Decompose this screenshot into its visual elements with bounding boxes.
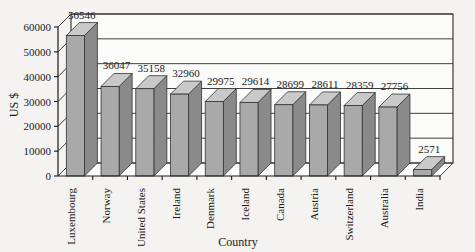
bar-value-label: 29975 bbox=[207, 75, 235, 87]
bar bbox=[171, 81, 202, 176]
chart-container: 0100002000030000400005000060000 56546360… bbox=[0, 0, 475, 252]
x-axis-category-label: Austria bbox=[308, 188, 320, 221]
x-axis-category-label: Australia bbox=[378, 188, 390, 228]
x-axis-category-label: Norway bbox=[100, 188, 112, 224]
x-axis-category-label: Switzerland bbox=[343, 188, 355, 241]
bar-value-label: 32960 bbox=[172, 67, 200, 79]
y-axis-tick-label: 20000 bbox=[24, 120, 52, 132]
x-axis-category-label: Iceland bbox=[239, 188, 251, 221]
bar bbox=[66, 23, 97, 176]
bar-value-label: 28359 bbox=[346, 79, 374, 91]
bar-value-label: 35158 bbox=[138, 62, 166, 74]
bar-value-label: 27756 bbox=[381, 80, 409, 92]
bar bbox=[275, 92, 306, 176]
bar bbox=[101, 73, 132, 176]
bar-value-label: 56546 bbox=[68, 9, 96, 21]
y-axis-tick-label: 60000 bbox=[24, 21, 52, 33]
bar bbox=[205, 89, 236, 176]
bar-value-label: 28699 bbox=[276, 78, 304, 90]
bar-value-label: 2571 bbox=[418, 143, 440, 155]
y-axis-tick-label: 40000 bbox=[24, 71, 52, 83]
y-axis-ticks: 0100002000030000400005000060000 bbox=[24, 21, 59, 182]
x-axis-category-label: India bbox=[413, 188, 425, 211]
x-axis-title: Country bbox=[218, 235, 257, 249]
bar bbox=[344, 93, 375, 176]
y-axis-tick-label: 0 bbox=[46, 170, 52, 182]
y-axis-tick-label: 50000 bbox=[24, 46, 52, 58]
y-axis-tick-label: 10000 bbox=[24, 145, 52, 157]
bar-value-label: 36047 bbox=[103, 59, 131, 71]
y-axis-title: US $ bbox=[7, 93, 21, 117]
bar bbox=[240, 89, 271, 176]
x-axis-category-label: Ireland bbox=[170, 188, 182, 220]
x-axis-category-label: Luxembourg bbox=[65, 188, 77, 245]
x-axis-category-label: United States bbox=[135, 188, 147, 247]
y-axis-tick-label: 30000 bbox=[24, 96, 52, 108]
bar-value-label: 29614 bbox=[242, 75, 270, 87]
bar bbox=[136, 76, 167, 176]
bar-chart: 0100002000030000400005000060000 56546360… bbox=[0, 0, 475, 252]
bar bbox=[309, 92, 340, 176]
x-axis-category-label: Canada bbox=[274, 188, 286, 221]
x-axis-category-label: Denmark bbox=[204, 188, 216, 229]
bar bbox=[379, 94, 410, 176]
bar-value-label: 28611 bbox=[311, 78, 338, 90]
